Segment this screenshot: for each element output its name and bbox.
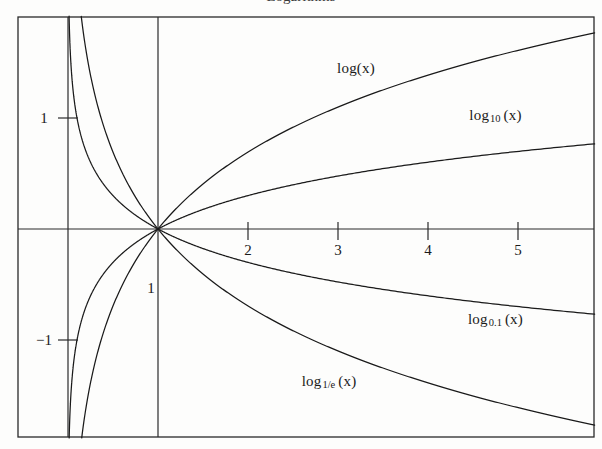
curve-label-log10(x): log10(x) <box>469 107 521 124</box>
curve-label-base: 10 <box>489 113 502 124</box>
curve-label-log(x): log(x) <box>337 61 375 76</box>
x-tick-label-2: 2 <box>244 243 252 258</box>
x-tick-label-3: 3 <box>334 243 342 258</box>
curve-label-arg: (x) <box>502 106 522 122</box>
curve-label-arg: (x) <box>336 373 356 389</box>
x-tick-label-4: 4 <box>424 243 432 258</box>
curve-label-text: log <box>468 311 488 327</box>
x-tick-label-5: 5 <box>514 243 522 258</box>
curve-label-base: 1/e <box>321 379 336 390</box>
y-tick-label-1: 1 <box>40 111 48 126</box>
curve-label-text: log(x) <box>337 60 375 76</box>
logarithm-chart-figure: Logarithms log(x)log10(x)log0.1(x)log1/e… <box>0 0 602 449</box>
x-equals-one-label: 1 <box>147 281 155 296</box>
curve-log0.1(x) <box>69 16 595 314</box>
curve-label-arg: (x) <box>503 311 523 327</box>
x-axis-ticks <box>248 222 518 240</box>
curve-label-text: log <box>302 373 322 389</box>
curve-label-text: log <box>469 106 489 122</box>
curve-label-log0.1(x): log0.1(x) <box>468 312 523 329</box>
curve-label-log1/e(x): log1/e(x) <box>302 374 357 391</box>
curve-label-base: 0.1 <box>488 317 503 328</box>
y-tick-label--1: −1 <box>36 333 52 348</box>
